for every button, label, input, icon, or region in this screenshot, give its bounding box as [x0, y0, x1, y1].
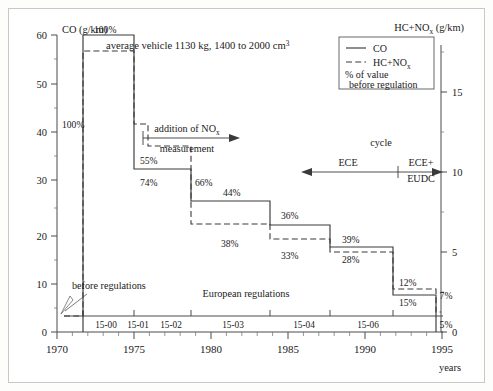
legend-note-line2: before regulation: [349, 79, 418, 90]
pct-label-co-39: 39%: [342, 234, 360, 245]
emissions-step-chart: CO (g/km) HC+NOx (g/km) average vehicle …: [9, 9, 484, 382]
european-regulations-label: European regulations: [203, 288, 290, 299]
x-ticklabel-1995: 1995: [431, 343, 454, 355]
pct-label-hc-100: 100%: [62, 119, 84, 130]
left-ticklabel-20: 20: [37, 231, 48, 242]
pct-label-hc-33: 33%: [281, 250, 299, 261]
left-ticklabel-60: 60: [37, 30, 48, 41]
legend-label-hc-nox-main: HC+NO: [373, 57, 407, 68]
right-ticklabel-15: 15: [452, 87, 463, 98]
pct-label-hc-38: 38%: [221, 238, 239, 249]
addition-nox-line1-text: addition of NO: [154, 123, 216, 134]
right-ticklabel-10: 10: [452, 167, 463, 178]
right-ticklabel-0: 0: [452, 327, 457, 338]
left-ticklabel-10: 10: [37, 279, 48, 290]
pct-label-hc-5: 5%: [440, 319, 453, 330]
pct-label-co-55: 55%: [140, 155, 158, 166]
cycle-label: cycle: [370, 137, 392, 148]
regulation-label-15-03: 15-03: [222, 320, 244, 330]
addition-nox-line1: addition of NOx: [154, 123, 220, 137]
ece-label: ECE: [338, 157, 357, 168]
figure-frame: CO (g/km) HC+NOx (g/km) average vehicle …: [8, 8, 485, 383]
pct-label-co-7: 7%: [440, 290, 453, 301]
addition-nox-annotation: addition of NOx measurement: [143, 123, 240, 154]
right-axis-title-main: HC+NO: [394, 22, 430, 33]
pct-label-hc-74: 74%: [140, 177, 158, 188]
regulation-axis-ticks: [83, 310, 393, 316]
hc-nox-step-curve: [64, 51, 441, 316]
x-ticklabel-1985: 1985: [277, 343, 300, 355]
legend-label-co: CO: [373, 43, 387, 54]
x-ticklabel-1975: 1975: [123, 343, 146, 355]
addition-nox-line1-sub: x: [216, 128, 220, 137]
before-regulations-annotation: before regulations: [61, 280, 146, 314]
right-axis-title: HC+NOx (g/km): [394, 22, 464, 36]
pct-label-co-36: 36%: [281, 210, 299, 221]
left-ticklabel-40: 40: [37, 127, 48, 138]
left-ticklabel-0: 0: [42, 327, 47, 338]
pct-label-co-12: 12%: [399, 277, 417, 288]
left-ticklabel-50: 50: [37, 79, 48, 90]
x-ticklabel-1980: 1980: [200, 343, 223, 355]
regulation-label-15-00: 15-00: [95, 320, 117, 330]
cycle-annotation: cycle ECE ECE+ EUDC: [301, 137, 443, 184]
right-axis-title-unit: (g/km): [433, 22, 464, 34]
before-regulations-label: before regulations: [72, 280, 146, 291]
legend-label-hc-nox-sub: x: [407, 62, 411, 71]
figure-container: CO (g/km) HC+NOx (g/km) average vehicle …: [0, 0, 493, 391]
pct-label-hc-15: 15%: [399, 297, 417, 308]
x-axis-label: years: [439, 362, 461, 373]
x-ticklabel-1990: 1990: [354, 343, 377, 355]
ece-eudc-label-line1: ECE+: [409, 157, 434, 168]
regulation-label-15-04: 15-04: [293, 320, 315, 330]
pct-label-hc-66: 66%: [195, 177, 213, 188]
regulation-label-15-02: 15-02: [160, 320, 182, 330]
x-ticklabel-1970: 1970: [46, 343, 69, 355]
chart-title-note-text: average vehicle 1130 kg, 1400 to 2000 cm: [106, 40, 286, 51]
addition-nox-line2: measurement: [160, 143, 214, 154]
regulation-label-15-01: 15-01: [127, 320, 149, 330]
right-ticklabel-5: 5: [452, 247, 457, 258]
pct-label-co-44: 44%: [223, 187, 241, 198]
regulation-label-15-06: 15-06: [357, 320, 379, 330]
pct-label-co-100: 100%: [94, 24, 116, 35]
pct-label-hc-28: 28%: [342, 254, 360, 265]
left-ticklabel-30: 30: [37, 175, 48, 186]
legend: CO HC+NOx % of value before regulation: [339, 37, 434, 90]
x-minor-ticks: [72, 332, 426, 336]
ece-eudc-label-line2: EUDC: [407, 173, 435, 184]
chart-title-note-sup: 3: [286, 39, 290, 48]
